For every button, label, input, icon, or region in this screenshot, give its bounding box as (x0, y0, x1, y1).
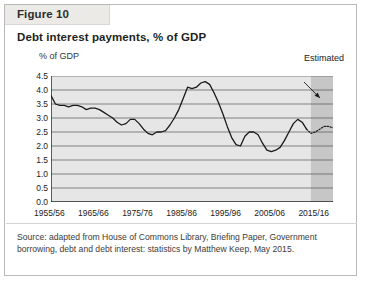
y-axis-tick-label: 4.5 (22, 72, 48, 81)
x-axis-tick-label: 1985/86 (166, 209, 197, 218)
x-axis-tick-label: 1975/76 (122, 209, 153, 218)
y-axis-tick-label: 0.0 (22, 198, 48, 207)
figure-container: Figure 10 Debt interest payments, % of G… (4, 4, 357, 276)
estimated-annotation-label: Estimated (304, 53, 344, 63)
x-axis-tick-label: 2005/06 (254, 209, 285, 218)
source-divider (6, 223, 357, 224)
y-axis-tick-label: 2.5 (22, 128, 48, 137)
y-axis-tick-label: 1.5 (22, 156, 48, 165)
plot-frame (51, 76, 333, 202)
x-axis-tick-label: 2015/16 (298, 209, 329, 218)
x-axis-tick-label: 1965/66 (78, 209, 109, 218)
chart-title: Debt interest payments, % of GDP (17, 31, 206, 43)
x-axis-tick-label: 1995/96 (210, 209, 241, 218)
x-axis-tick-label: 1955/56 (34, 209, 65, 218)
y-axis-tick-label: 1.0 (22, 170, 48, 179)
source-note: Source: adapted from House of Commons Li… (17, 231, 347, 256)
figure-number-label: Figure 10 (17, 8, 69, 20)
y-axis-tick-label: 3.5 (22, 100, 48, 109)
y-axis-tick-label: 4.0 (22, 86, 48, 95)
y-axis-tick-label: 2.0 (22, 142, 48, 151)
figure-number-tab: Figure 10 (5, 5, 110, 25)
y-axis-title: % of GDP (39, 51, 79, 61)
y-axis-tick-label: 3.0 (22, 114, 48, 123)
chart-plot-svg (51, 76, 333, 202)
chart-area: % of GDP Estimated 0.00.51.01.52.02.53.0… (13, 51, 350, 221)
y-axis-tick-label: 0.5 (22, 184, 48, 193)
